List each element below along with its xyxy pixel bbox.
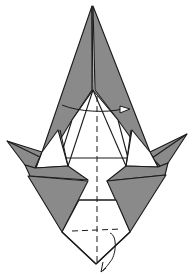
origami-diagram	[0, 0, 195, 274]
left-wing-point	[7, 141, 42, 168]
fold-arrow-bottom-loop	[101, 262, 106, 272]
diagram-stage: Folded origami base with two gray upper …	[0, 0, 195, 274]
